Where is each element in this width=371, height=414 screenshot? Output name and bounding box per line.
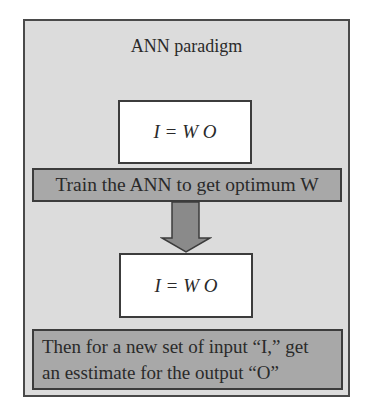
train-step-text: Train the ANN to get optimum W <box>55 174 318 195</box>
equation-text-top: I = W O <box>154 121 217 143</box>
equation-text-bottom: I = W O <box>155 275 218 297</box>
equation-box-top: I = W O <box>118 100 252 164</box>
equation-box-bottom: I = W O <box>119 253 253 318</box>
diagram-title: ANN paradigm <box>23 36 350 57</box>
predict-step-line-2: an esstimate for the output “O” <box>42 360 341 386</box>
down-arrow-icon <box>160 202 212 254</box>
train-step-band: Train the ANN to get optimum W <box>32 168 342 202</box>
predict-step-line-1: Then for a new set of input “I,” get <box>42 334 341 360</box>
predict-step-band: Then for a new set of input “I,” get an … <box>32 329 343 390</box>
